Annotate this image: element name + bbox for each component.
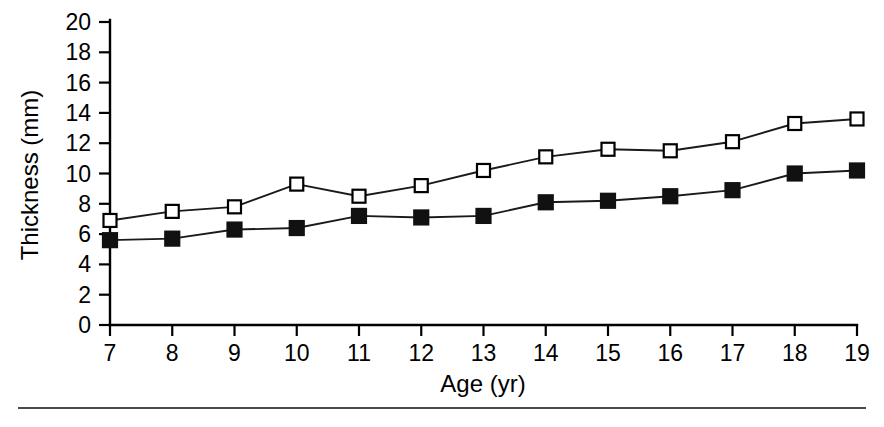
x-tick-label: 14 (533, 340, 559, 366)
series-line-filled-square-series (110, 170, 857, 240)
y-tick-label: 12 (65, 130, 91, 156)
y-tick-label: 4 (78, 251, 91, 277)
data-point-filled-square (788, 167, 802, 181)
data-point-open-square (788, 117, 801, 130)
data-point-open-square (851, 112, 864, 125)
data-point-open-square (415, 179, 428, 192)
data-point-open-square (726, 135, 739, 148)
data-point-filled-square (477, 209, 491, 223)
data-point-open-square (539, 150, 552, 163)
x-tick-label: 10 (284, 340, 310, 366)
y-tick-label: 18 (65, 39, 91, 65)
data-point-filled-square (352, 209, 366, 223)
data-series-group (103, 112, 864, 247)
x-tick-label: 7 (104, 340, 117, 366)
y-tick-label: 10 (65, 161, 91, 187)
data-point-filled-square (290, 221, 304, 235)
data-point-filled-square (663, 189, 677, 203)
data-point-filled-square (726, 183, 740, 197)
y-tick-label: 8 (78, 191, 91, 217)
data-point-open-square (664, 144, 677, 157)
data-point-open-square (602, 143, 615, 156)
line-chart-plot: 02468101214161820 7891011121314151617181… (0, 0, 884, 427)
x-tick-label: 17 (720, 340, 746, 366)
x-tick-label: 9 (228, 340, 241, 366)
data-point-open-square (104, 214, 117, 227)
chart-figure: 02468101214161820 7891011121314151617181… (0, 0, 884, 427)
y-tick-label: 2 (78, 282, 91, 308)
x-axis-ticks: 78910111213141516171819 (104, 325, 870, 366)
data-point-filled-square (414, 210, 428, 224)
data-point-filled-square (165, 232, 179, 246)
y-axis-ticks: 02468101214161820 (65, 9, 110, 338)
data-point-open-square (166, 205, 179, 218)
x-axis-title: Age (yr) (440, 370, 525, 397)
y-tick-label: 6 (78, 221, 91, 247)
x-tick-label: 11 (347, 340, 371, 366)
x-tick-label: 12 (408, 340, 434, 366)
data-point-open-square (477, 164, 490, 177)
data-point-open-square (290, 178, 303, 191)
x-tick-label: 15 (595, 340, 621, 366)
x-tick-label: 18 (782, 340, 808, 366)
y-tick-label: 14 (65, 100, 91, 126)
y-tick-label: 0 (78, 312, 91, 338)
x-tick-label: 13 (471, 340, 497, 366)
x-tick-label: 19 (844, 340, 870, 366)
footer-divider (18, 407, 866, 409)
data-point-filled-square (539, 195, 553, 209)
data-point-filled-square (228, 223, 242, 237)
x-tick-label: 16 (657, 340, 683, 366)
x-tick-label: 8 (166, 340, 179, 366)
data-point-filled-square (850, 163, 864, 177)
y-tick-label: 20 (65, 9, 91, 35)
y-axis-title: Thickness (mm) (16, 90, 43, 261)
data-point-filled-square (601, 194, 615, 208)
data-point-filled-square (103, 233, 117, 247)
y-tick-label: 16 (65, 70, 91, 96)
data-point-open-square (228, 200, 241, 213)
data-point-open-square (353, 190, 366, 203)
